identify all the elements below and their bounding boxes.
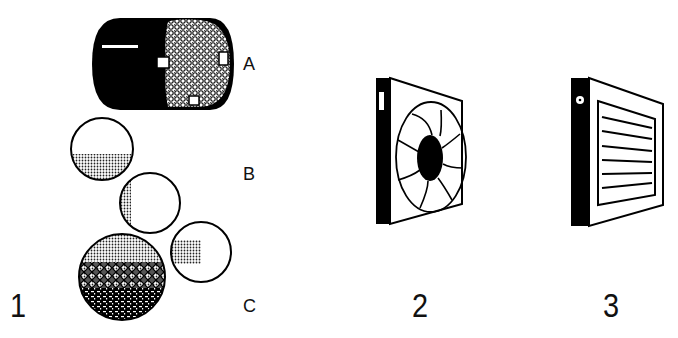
cylinder-a (92, 18, 234, 110)
louver-panel (571, 78, 663, 226)
panel-number-1: 1 (10, 288, 26, 322)
circles-c (78, 222, 231, 322)
label-b: B (243, 165, 255, 183)
circles-b (70, 118, 180, 236)
panel-number-3: 3 (603, 288, 619, 322)
fan-panel (376, 78, 466, 224)
label-a: A (243, 55, 255, 73)
technical-illustration (0, 0, 678, 338)
label-c: C (243, 297, 256, 315)
panel-number-2: 2 (412, 288, 428, 322)
